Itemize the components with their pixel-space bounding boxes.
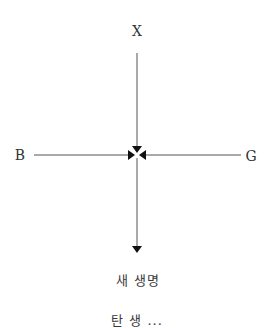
node-label-bottom-cut: 탄 생 ... (111, 314, 163, 327)
arrow-down-head-top (132, 146, 142, 153)
arrow-right-head-left (128, 150, 135, 160)
node-label-g: G (245, 149, 256, 163)
arrow-down-head-bottom (132, 246, 142, 253)
node-label-b: B (15, 148, 25, 162)
arrow-left-head-right (139, 150, 146, 160)
node-label-result: 새 생명 (116, 274, 160, 287)
node-label-x: X (132, 24, 142, 38)
